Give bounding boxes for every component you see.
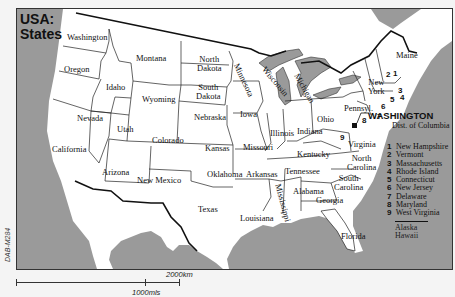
map-code: DAB-M284 bbox=[4, 228, 11, 262]
label-texas: Texas bbox=[198, 205, 218, 214]
label-washington: Washington bbox=[67, 33, 107, 42]
scale-km-label: 2000km bbox=[166, 270, 193, 279]
legend: 1 New Hampshire 2 Vermont 3 Massachusett… bbox=[387, 143, 448, 240]
label-iowa: Iowa bbox=[240, 110, 257, 119]
label-indiana: Indiana bbox=[297, 127, 323, 136]
label-kansas: Kansas bbox=[205, 144, 230, 153]
scale-mi-label: 1000mls bbox=[132, 288, 160, 297]
label-north-carolina: North Carolina bbox=[347, 154, 376, 172]
label-south-dakota: South Dakota bbox=[196, 83, 221, 101]
map-number-1: 1 bbox=[393, 69, 397, 78]
map-number-4: 4 bbox=[400, 93, 404, 102]
map-number-9: 9 bbox=[340, 133, 344, 142]
label-nevada: Nevada bbox=[77, 114, 103, 123]
label-virginia: Virginia bbox=[348, 140, 376, 149]
label-florida: Florida bbox=[341, 232, 366, 241]
label-georgia: Georgia bbox=[316, 196, 343, 205]
label-ohio: Ohio bbox=[317, 115, 334, 124]
label-north-dakota: North Dakota bbox=[197, 55, 222, 73]
label-idaho: Idaho bbox=[106, 83, 125, 92]
legend-item: 9 West Virginia bbox=[387, 209, 448, 217]
capital-label: WASHINGTON bbox=[368, 110, 433, 121]
dc-marker bbox=[352, 123, 357, 128]
label-illinois: Illinois bbox=[270, 129, 294, 138]
legend-divider bbox=[395, 221, 428, 222]
label-nebraska: Nebraska bbox=[194, 113, 226, 122]
label-california: California bbox=[52, 145, 86, 154]
label-maine: Maine bbox=[396, 51, 418, 60]
label-kentucky: Kentucky bbox=[297, 150, 330, 159]
label-montana: Montana bbox=[136, 54, 166, 63]
label-utah: Utah bbox=[117, 125, 134, 134]
label-missouri: Missouri bbox=[243, 143, 273, 152]
label-arkansas: Arkansas bbox=[246, 170, 278, 179]
label-oregon: Oregon bbox=[64, 65, 90, 74]
label-louisiana: Louisiana bbox=[240, 214, 274, 223]
label-tennessee: Tennessee bbox=[285, 167, 320, 176]
map-number-2: 2 bbox=[386, 70, 390, 79]
label-arizona: Arizona bbox=[102, 168, 129, 177]
label-oklahoma: Oklahoma bbox=[207, 170, 242, 179]
capital-sublabel: Dist. of Columbia bbox=[392, 121, 450, 130]
label-new-mexico: New Mexico bbox=[137, 176, 181, 185]
label-colorado: Colorado bbox=[152, 136, 184, 145]
map-number-5: 5 bbox=[390, 95, 394, 104]
label-south-carolina: South Carolina bbox=[334, 174, 363, 192]
map-number-8: 8 bbox=[362, 116, 366, 125]
label-new-york: New York bbox=[368, 78, 385, 96]
label-wyoming: Wyoming bbox=[142, 95, 176, 104]
legend-extra-hawaii: Hawaii bbox=[387, 232, 448, 240]
scale-bar bbox=[16, 279, 180, 285]
map-title: USA: States bbox=[20, 12, 62, 42]
